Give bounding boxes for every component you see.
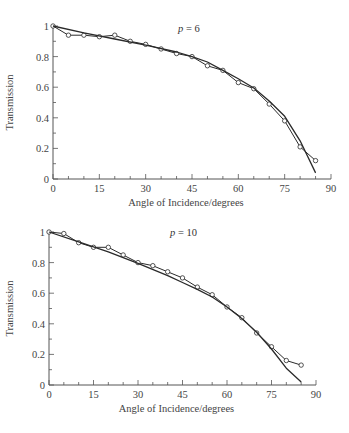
data-point-marker [180, 276, 184, 280]
data-point-marker [299, 363, 303, 367]
parameter-value: = 6 [183, 23, 199, 34]
x-tick-label: 0 [46, 389, 51, 400]
parameter-annotation: p = 10 [169, 227, 197, 238]
y-tick-label: 1 [40, 227, 45, 238]
data-point-marker [151, 263, 155, 267]
measured-line [53, 26, 316, 161]
x-tick-label: 30 [140, 183, 151, 194]
data-point-marker [113, 33, 117, 37]
data-point-marker [165, 270, 169, 274]
chart-p10: 015304560759000.20.40.60.81Angle of Inci… [4, 227, 321, 414]
y-tick-label: 0.4 [36, 113, 50, 124]
x-tick-label: 90 [326, 183, 337, 194]
data-point-marker [313, 158, 317, 162]
x-tick-label: 15 [94, 183, 105, 194]
data-point-marker [236, 80, 240, 84]
transmission-charts: 015304560759000.20.40.60.81Angle of Inci… [0, 0, 349, 433]
data-point-marker [205, 64, 209, 68]
data-point-marker [66, 33, 70, 37]
x-tick-label: 45 [187, 183, 198, 194]
x-tick-label: 60 [233, 183, 244, 194]
x-tick-label: 75 [266, 389, 277, 400]
x-tick-label: 45 [177, 389, 188, 400]
model-curve [53, 26, 316, 173]
x-tick-label: 60 [222, 389, 233, 400]
measured-line [49, 232, 301, 365]
x-tick-label: 15 [88, 389, 99, 400]
data-point-marker [62, 231, 66, 235]
y-tick-label: 0.8 [32, 258, 45, 269]
x-axis-label: Angle of Incidence/degrees [119, 403, 234, 414]
parameter-value: = 10 [175, 227, 197, 238]
y-tick-label: 0.8 [36, 52, 49, 63]
y-tick-label: 0 [40, 380, 45, 391]
x-tick-label: 0 [50, 183, 55, 194]
model-curve [49, 232, 301, 382]
y-tick-label: 1 [44, 21, 49, 32]
y-tick-label: 0.2 [32, 349, 45, 360]
x-axis-label: Angle of Incidence/degrees [128, 197, 243, 208]
parameter-annotation: p = 6 [177, 23, 200, 34]
chart-p6: 015304560759000.20.40.60.81Angle of Inci… [4, 21, 336, 208]
x-tick-label: 75 [279, 183, 290, 194]
x-tick-label: 90 [311, 389, 322, 400]
data-point-marker [284, 358, 288, 362]
data-point-marker [106, 245, 110, 249]
y-tick-label: 0 [44, 174, 49, 185]
x-tick-label: 30 [133, 389, 144, 400]
y-axis-label: Transmission [4, 280, 15, 337]
y-tick-label: 0.6 [32, 288, 45, 299]
y-tick-label: 0.4 [32, 319, 46, 330]
y-axis-label: Transmission [4, 74, 15, 131]
y-tick-label: 0.2 [36, 143, 49, 154]
y-tick-label: 0.6 [36, 82, 49, 93]
